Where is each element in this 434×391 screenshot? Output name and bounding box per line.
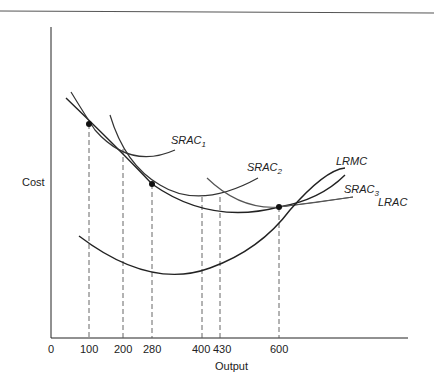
tick-200: 200 bbox=[114, 343, 132, 355]
tick-600: 600 bbox=[270, 343, 288, 355]
srac3-label: SRAC3 bbox=[344, 183, 380, 198]
cost-curves-chart: SRAC1 SRAC2 SRAC3 LRMC LRAC Cost Output … bbox=[0, 0, 434, 391]
lrmc-curve bbox=[79, 168, 345, 274]
tick-430: 430 bbox=[213, 343, 231, 355]
lrmc-label: LRMC bbox=[336, 155, 367, 167]
srac3-curve bbox=[207, 178, 353, 207]
top-rule bbox=[0, 11, 434, 13]
srac1-label: SRAC1 bbox=[171, 134, 206, 149]
srac2-label: SRAC2 bbox=[247, 161, 283, 176]
tangency-point-280 bbox=[149, 181, 155, 187]
dashed-guides bbox=[89, 124, 279, 338]
y-axis-label: Cost bbox=[22, 176, 45, 188]
tangency-point-100 bbox=[86, 121, 92, 127]
tangency-point-600 bbox=[276, 204, 282, 210]
tick-100: 100 bbox=[80, 343, 98, 355]
tick-280: 280 bbox=[143, 343, 161, 355]
tick-400: 400 bbox=[192, 343, 210, 355]
lrac-label: LRAC bbox=[378, 196, 407, 208]
x-axis-label: Output bbox=[215, 360, 248, 372]
tick-0: 0 bbox=[48, 343, 54, 355]
